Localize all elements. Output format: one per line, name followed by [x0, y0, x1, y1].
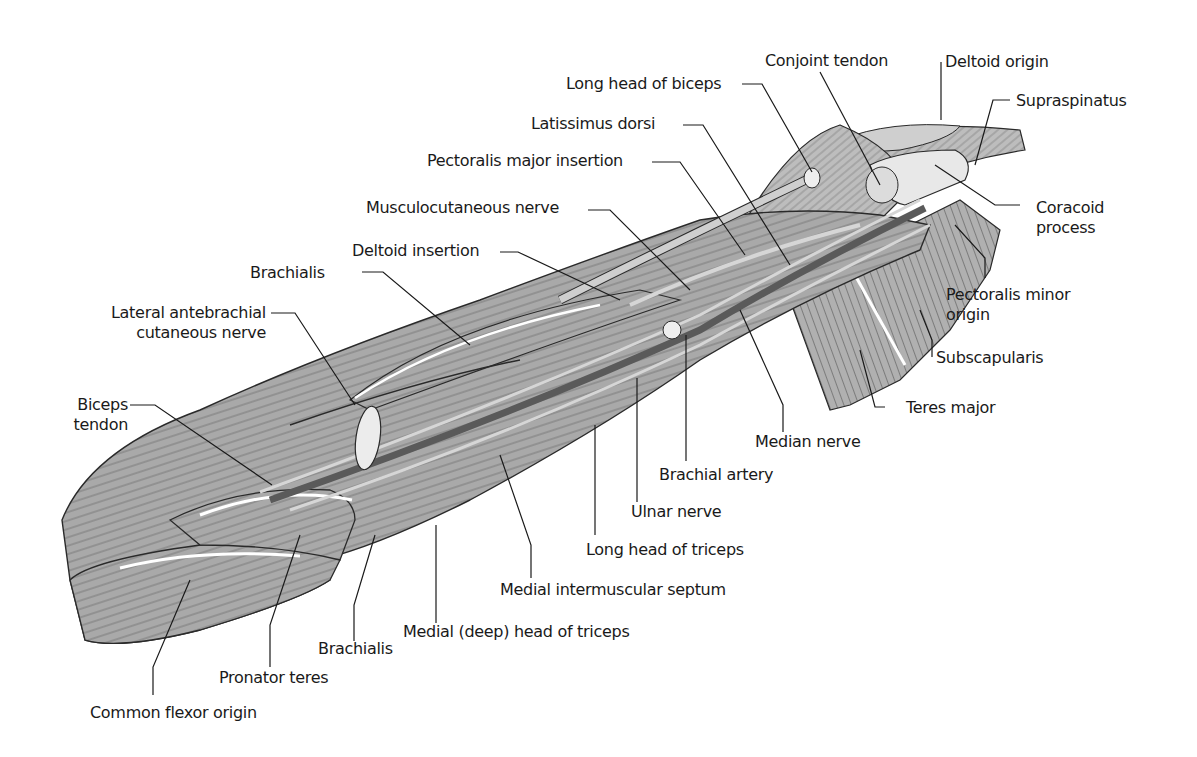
label-latissimus-dorsi: Latissimus dorsi: [531, 114, 655, 134]
label-long-head-of-biceps: Long head of biceps: [566, 74, 721, 94]
label-pectoralis-minor-line2: origin: [946, 305, 1070, 325]
label-pectoralis-minor-line1: Pectoralis minor: [946, 285, 1070, 305]
label-biceps-tendon-line1: Biceps: [70, 395, 128, 415]
label-deltoid-insertion: Deltoid insertion: [352, 241, 479, 261]
label-median-nerve: Median nerve: [755, 432, 861, 452]
label-biceps-tendon: Biceps tendon: [70, 395, 128, 435]
label-supraspinatus: Supraspinatus: [1016, 91, 1127, 111]
label-teres-major: Teres major: [906, 398, 995, 418]
label-conjoint-tendon: Conjoint tendon: [765, 51, 888, 71]
label-brachial-artery: Brachial artery: [659, 465, 773, 485]
label-pectoralis-major-insertion: Pectoralis major insertion: [427, 151, 623, 171]
label-brachialis-bottom: Brachialis: [318, 639, 393, 659]
label-common-flexor-origin: Common flexor origin: [90, 703, 257, 723]
label-coracoid-process: Coracoid process: [1036, 198, 1104, 238]
label-coracoid-line1: Coracoid: [1036, 198, 1104, 218]
label-long-head-of-triceps: Long head of triceps: [586, 540, 744, 560]
label-lateral-antebrachial-line1: Lateral antebrachial: [98, 303, 266, 323]
label-biceps-tendon-line2: tendon: [70, 415, 128, 435]
label-medial-deep-head-of-triceps: Medial (deep) head of triceps: [403, 622, 629, 642]
label-coracoid-line2: process: [1036, 218, 1104, 238]
arm-body: [62, 168, 930, 643]
label-deltoid-origin: Deltoid origin: [945, 52, 1049, 72]
label-musculocutaneous-nerve: Musculocutaneous nerve: [366, 198, 559, 218]
label-lateral-antebrachial-cutaneous-nerve: Lateral antebrachial cutaneous nerve: [98, 303, 266, 343]
label-medial-intermuscular-septum: Medial intermuscular septum: [500, 580, 726, 600]
label-pectoralis-minor-origin: Pectoralis minor origin: [946, 285, 1070, 325]
label-brachialis-top: Brachialis: [250, 263, 325, 283]
label-pronator-teres: Pronator teres: [219, 668, 328, 688]
label-ulnar-nerve: Ulnar nerve: [631, 502, 721, 522]
label-subscapularis: Subscapularis: [936, 348, 1043, 368]
label-lateral-antebrachial-line2: cutaneous nerve: [98, 323, 266, 343]
